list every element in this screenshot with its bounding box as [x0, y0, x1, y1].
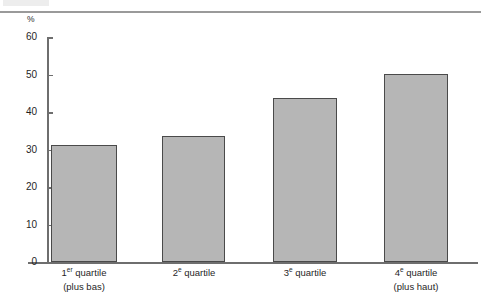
x-label-quartile-1: 1er quartile (plus bas) [36, 266, 132, 293]
bar-quartile-4 [384, 74, 448, 262]
y-tick-label-40: 40 [11, 107, 37, 117]
x-label-quartile-3-rest: quartile [293, 267, 327, 278]
x-label-quartile-4-rest: quartile [404, 267, 438, 278]
y-tick-40 [47, 112, 53, 114]
y-tick-label-50: 50 [11, 70, 37, 80]
x-label-quartile-3: 3e quartile [257, 266, 353, 280]
x-axis-line [28, 262, 478, 264]
x-label-quartile-1-sub: (plus bas) [36, 280, 132, 294]
x-label-quartile-2: 2e quartile [146, 266, 242, 280]
y-tick-60 [47, 37, 53, 39]
x-label-quartile-1-rest: quartile [73, 267, 107, 278]
x-label-quartile-2-rest: quartile [182, 267, 216, 278]
y-tick-label-20: 20 [11, 182, 37, 192]
x-label-quartile-4-sub: (plus haut) [368, 280, 464, 294]
plot-area: 60 50 40 30 20 10 0 1er q [0, 0, 481, 300]
chart-figure: % 60 50 40 30 20 10 0 [0, 0, 481, 300]
y-tick-label-30: 30 [11, 145, 37, 155]
y-tick-label-10: 10 [11, 220, 37, 230]
x-label-quartile-4: 4e quartile (plus haut) [368, 266, 464, 293]
y-tick-label-60: 60 [11, 32, 37, 42]
y-tick-label-0: 0 [11, 257, 37, 267]
bar-quartile-3 [273, 98, 337, 262]
bar-quartile-1 [51, 145, 117, 262]
y-tick-50 [47, 75, 53, 77]
bar-quartile-2 [162, 136, 225, 262]
